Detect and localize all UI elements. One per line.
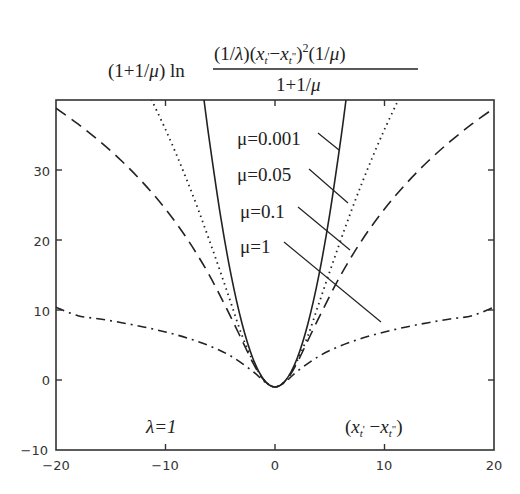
chart-title-formula: (1+1/μ) ln (1/λ)(xt'−xt")2(1/μ) 1+1/μ [108,41,418,95]
x-tick-label: −20 [42,458,69,473]
label-mu-0001: μ=0.001 [237,128,301,149]
label-mu-005: μ=0.05 [237,164,291,185]
label-mu-01: μ=0.1 [240,201,285,222]
y-tick-labels: 30 20 10 0 −10 [21,164,50,458]
leader-line-mu-0001 [318,133,339,150]
x-tick-labels: −20 −10 0 10 20 [42,458,502,473]
formula-prefix: (1+1/μ) ln [108,60,185,82]
curve--1 [56,307,494,387]
leader-line-mu-005 [309,169,348,203]
label-mu-1: μ=1 [240,236,270,257]
y-tick-label: 0 [42,373,50,388]
plot-frame [56,100,494,450]
x-tick-label: 20 [486,458,503,473]
x-tick-label: −10 [151,458,178,473]
x-tick-label: 10 [376,458,393,473]
axis-ticks [56,100,494,450]
lambda-annotation: λ=1 [145,416,177,437]
y-tick-label: 10 [33,304,50,319]
curve--0-1 [56,108,494,387]
y-tick-label: 20 [33,234,50,249]
curve-labels: μ=0.001 μ=0.05 μ=0.1 μ=1 [237,128,381,322]
leader-line-mu-1 [284,242,381,322]
formula-denominator: 1+1/μ [276,74,321,95]
y-tick-label: −10 [21,443,48,458]
x-tick-label: 0 [271,458,279,473]
x-axis-label: (xt' −xt") [345,416,403,439]
chart: (1+1/μ) ln (1/λ)(xt'−xt")2(1/μ) 1+1/μ −2… [0,0,520,494]
formula-numerator: (1/λ)(xt'−xt")2(1/μ) [214,41,346,66]
y-tick-label: 30 [33,164,50,179]
